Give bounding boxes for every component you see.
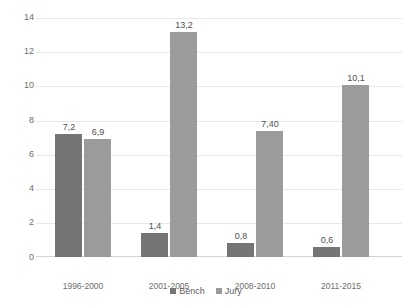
bar-value-label: 7,40 (249, 119, 291, 129)
bar-jury[interactable] (342, 85, 369, 257)
bar-group: 7,2 6,9 1996-2000 (55, 18, 111, 257)
square-marker-icon (216, 288, 222, 294)
y-tick-label: 8 (8, 116, 34, 125)
bar-jury[interactable] (84, 139, 111, 257)
bar-value-label: 6,9 (77, 127, 119, 137)
bar-bench[interactable] (227, 243, 254, 257)
bar-group: 0,8 7,40 2008-2010 (227, 18, 283, 257)
bar-group: 0,6 10,1 2011-2015 (313, 18, 369, 257)
y-axis: 14 12 10 8 6 4 2 0 (0, 0, 34, 275)
y-tick-label: 6 (8, 150, 34, 159)
bar-value-label: 10,1 (335, 73, 377, 83)
square-marker-icon (170, 288, 176, 294)
y-tick-label: 12 (8, 47, 34, 56)
chart-legend: Bench Jury (0, 286, 412, 296)
legend-label: Bench (179, 286, 205, 296)
bar-bench[interactable] (313, 247, 340, 257)
bar-group: 1,4 13,2 2001-2005 (141, 18, 197, 257)
legend-item-bench[interactable]: Bench (170, 286, 205, 296)
legend-label: Jury (225, 286, 242, 296)
y-tick-label: 10 (8, 81, 34, 90)
bar-bench[interactable] (55, 134, 82, 257)
bar-bench[interactable] (141, 233, 168, 257)
bar-value-label: 1,4 (134, 221, 176, 231)
bar-value-label: 0,8 (220, 231, 262, 241)
bar-value-label: 13,2 (163, 20, 205, 30)
plot-area: 7,2 6,9 1996-2000 1,4 13,2 2001-2005 0,8… (36, 18, 402, 257)
y-tick-label: 4 (8, 184, 34, 193)
y-tick-label: 2 (8, 218, 34, 227)
grouped-bar-chart: 14 12 10 8 6 4 2 0 7,2 6,9 1996-2000 1,4 (0, 0, 412, 308)
bar-value-label: 0,6 (306, 235, 348, 245)
legend-item-jury[interactable]: Jury (216, 286, 242, 296)
y-tick-label: 0 (8, 253, 34, 262)
y-tick-label: 14 (8, 13, 34, 22)
